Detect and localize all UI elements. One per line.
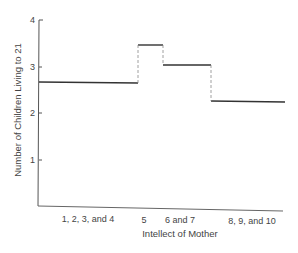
y-tick-label: 3: [30, 62, 35, 72]
x-category-label: 5: [141, 215, 146, 225]
step-connectors: [138, 45, 211, 101]
x-category-label: 6 and 7: [165, 215, 195, 225]
x-axis-title: Intellect of Mother: [142, 228, 218, 239]
step-level-1-4: [39, 82, 138, 83]
y-tick-label: 1: [30, 155, 35, 165]
x-category-label: 1, 2, 3, and 4: [62, 214, 115, 224]
step-chart: 4 3 2 1 Number of Children Living to 21 …: [0, 0, 298, 253]
y-axis: 4 3 2 1 Number of Children Living to 21: [12, 15, 43, 206]
y-axis-title: Number of Children Living to 21: [12, 43, 23, 177]
step-level-8-10: [211, 101, 285, 102]
x-category-label: 8, 9, and 10: [228, 216, 276, 226]
y-tick-label: 4: [30, 15, 35, 25]
y-tick-label: 2: [30, 108, 35, 118]
step-series: [39, 45, 285, 102]
x-axis: 1, 2, 3, and 4 5 6 and 7 8, 9, and 10 In…: [38, 206, 283, 239]
